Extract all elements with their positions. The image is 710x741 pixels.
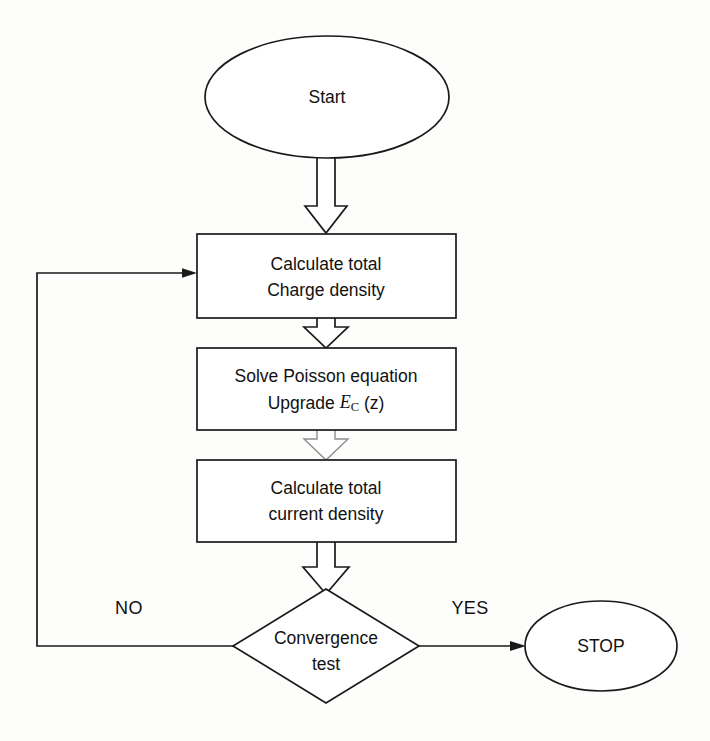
start-label: Start bbox=[309, 87, 346, 107]
charge-density-line1: Calculate total bbox=[271, 254, 382, 274]
block-arrow-down-start bbox=[305, 150, 347, 233]
charge-density-box bbox=[197, 234, 456, 318]
edge-charge-to-poisson bbox=[304, 316, 348, 348]
edge-yes-to-stop: YES bbox=[419, 598, 526, 651]
yes-arrowhead bbox=[510, 641, 526, 651]
convergence-line1: Convergence bbox=[274, 628, 378, 648]
poisson-line2: Upgrade EC (z) bbox=[268, 392, 385, 414]
poisson-energy-subscript: C bbox=[351, 400, 359, 414]
poisson-z-argument: (z) bbox=[359, 393, 384, 413]
node-poisson-equation: Solve Poisson equation Upgrade EC (z) bbox=[197, 348, 456, 430]
node-start: Start bbox=[205, 36, 449, 158]
convergence-line2: test bbox=[312, 654, 340, 674]
edge-label-no: NO bbox=[115, 598, 143, 618]
edge-no-feedback: NO bbox=[37, 268, 233, 646]
node-stop: STOP bbox=[525, 601, 677, 691]
edge-label-yes: YES bbox=[451, 598, 488, 618]
block-arrow-down-current bbox=[303, 540, 349, 594]
block-arrow-down-charge bbox=[304, 316, 348, 348]
edge-start-to-charge bbox=[305, 150, 347, 233]
current-density-line1: Calculate total bbox=[271, 478, 382, 498]
flowchart-diagram: Start Calculate total Charge density Sol… bbox=[0, 0, 710, 741]
poisson-line1: Solve Poisson equation bbox=[235, 366, 418, 386]
no-feedback-arrowhead bbox=[182, 268, 197, 278]
poisson-box bbox=[197, 348, 456, 430]
node-charge-density: Calculate total Charge density bbox=[197, 234, 456, 318]
stop-label: STOP bbox=[577, 636, 624, 656]
poisson-energy-symbol: E bbox=[339, 392, 351, 412]
node-convergence-test: Convergence test bbox=[233, 589, 419, 703]
edge-poisson-to-current bbox=[304, 428, 348, 460]
block-arrow-down-poisson bbox=[304, 428, 348, 460]
edge-current-to-decision bbox=[303, 540, 349, 594]
current-density-box bbox=[197, 460, 456, 542]
poisson-upgrade-text: Upgrade bbox=[268, 393, 340, 413]
charge-density-line2: Charge density bbox=[267, 280, 385, 300]
node-current-density: Calculate total current density bbox=[197, 460, 456, 542]
flowchart-canvas: Start Calculate total Charge density Sol… bbox=[0, 0, 710, 741]
current-density-line2: current density bbox=[269, 504, 384, 524]
